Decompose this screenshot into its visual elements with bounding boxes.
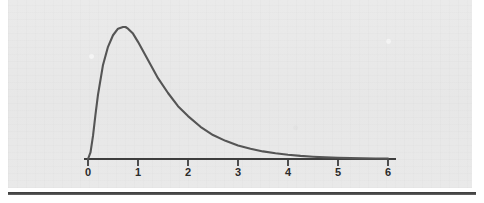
density-curve [88, 27, 388, 159]
x-tick-label-4: 4 [278, 166, 298, 178]
x-tick-label-5: 5 [328, 166, 348, 178]
x-tick-label-3: 3 [228, 166, 248, 178]
page-bottom-rule [8, 192, 476, 195]
x-tick-label-0: 0 [78, 166, 98, 178]
figure-container: 0 1 2 3 4 5 6 [0, 0, 484, 203]
x-tick-label-6: 6 [378, 166, 398, 178]
x-tick-label-2: 2 [178, 166, 198, 178]
x-tick-label-1: 1 [128, 166, 148, 178]
